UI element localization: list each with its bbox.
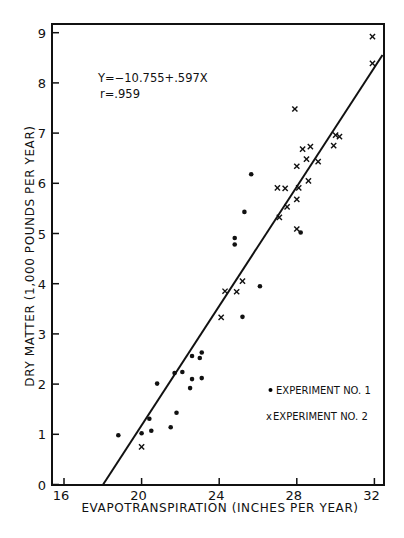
data-point-x	[294, 226, 299, 231]
data-point-dot	[199, 376, 204, 381]
data-point-dot	[240, 315, 245, 320]
data-point-dot	[190, 354, 195, 359]
y-tick-label: 1	[38, 427, 46, 442]
data-point-dot	[168, 425, 173, 430]
y-tick-label: 6	[38, 176, 46, 191]
data-point-dot	[198, 356, 203, 361]
data-point-x	[304, 157, 309, 162]
data-point-x	[234, 289, 239, 294]
data-point-dot	[232, 236, 237, 241]
data-point-x	[308, 144, 313, 149]
data-point-x	[222, 289, 227, 294]
data-point-dot	[180, 370, 185, 375]
y-tick-label: 4	[38, 277, 46, 292]
data-point-dot	[190, 377, 195, 382]
equation-annotation: Y=−10.755+.597X	[97, 71, 208, 85]
experiment-1-points	[116, 172, 303, 438]
legend: EXPERIMENT NO. 1 x EXPERIMENT NO. 2	[266, 385, 371, 422]
y-tick-label: 3	[38, 327, 46, 342]
data-point-x	[283, 186, 288, 191]
y-tick-label: 2	[38, 377, 46, 392]
y-tick-label: 8	[38, 76, 46, 91]
y-tick-label: 5	[38, 227, 46, 242]
data-point-dot	[199, 350, 204, 355]
x-tick-label: 32	[363, 488, 380, 503]
data-point-x	[139, 444, 144, 449]
scatter-chart: 0123456789 1620242832 Y=−10.755+.597X r=…	[0, 0, 404, 538]
y-axis-label: DRY MATTER (1,000 POUNDS PER YEAR)	[23, 125, 37, 386]
data-point-dot	[242, 210, 247, 215]
data-point-x	[240, 279, 245, 284]
data-point-dot	[139, 431, 144, 436]
y-tick-label: 0	[38, 478, 46, 493]
data-point-dot	[149, 428, 154, 433]
legend-label-exp1: EXPERIMENT NO. 1	[276, 385, 371, 396]
data-point-x	[219, 315, 224, 320]
data-point-dot	[116, 433, 121, 438]
legend-x-marker: x	[266, 411, 272, 422]
data-point-x	[370, 61, 375, 66]
data-point-x	[275, 185, 280, 190]
x-tick-label: 16	[53, 488, 70, 503]
data-point-dot	[155, 381, 160, 386]
data-point-x	[300, 147, 305, 152]
x-axis-ticks: 1620242832	[53, 478, 380, 503]
legend-dot-marker	[269, 388, 273, 392]
data-point-x	[331, 143, 336, 148]
x-axis-label: EVAPOTRANSPIRATION (INCHES PER YEAR)	[81, 501, 358, 515]
data-point-x	[306, 178, 311, 183]
data-point-dot	[249, 172, 254, 177]
data-point-x	[294, 164, 299, 169]
data-point-dot	[258, 284, 263, 289]
data-point-x	[285, 204, 290, 209]
data-point-dot	[147, 416, 152, 421]
data-point-dot	[174, 410, 179, 415]
data-point-dot	[188, 386, 193, 391]
data-point-x	[292, 106, 297, 111]
legend-label-exp2: EXPERIMENT NO. 2	[273, 411, 368, 422]
data-point-x	[294, 197, 299, 202]
data-point-x	[370, 34, 375, 39]
y-axis-ticks: 0123456789	[38, 26, 59, 493]
data-point-x	[316, 159, 321, 164]
data-point-dot	[232, 242, 237, 247]
correlation-annotation: r=.959	[100, 87, 140, 101]
y-tick-label: 9	[38, 26, 46, 41]
data-point-dot	[172, 371, 177, 376]
y-tick-label: 7	[38, 126, 46, 141]
